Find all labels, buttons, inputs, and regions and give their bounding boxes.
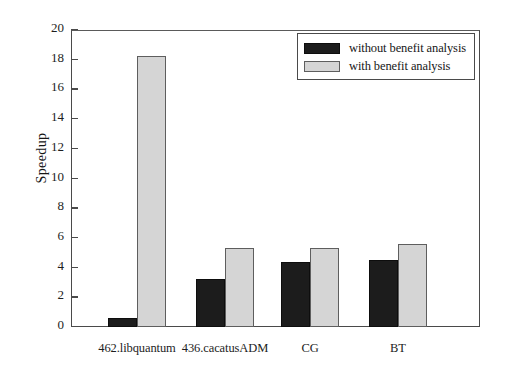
bar xyxy=(369,260,398,327)
y-tick-label: 20 xyxy=(30,20,64,36)
x-tick-label: BT xyxy=(328,341,468,356)
tick-mark xyxy=(71,29,78,30)
legend-item: with benefit analysis xyxy=(304,57,474,75)
y-tick-label: 14 xyxy=(30,109,64,125)
bar xyxy=(108,318,137,327)
y-tick-label: 2 xyxy=(30,287,64,303)
tick-mark xyxy=(71,178,78,179)
bar xyxy=(398,244,427,327)
tick-mark xyxy=(71,296,78,297)
legend-swatch-icon xyxy=(304,61,340,72)
y-tick-label: 4 xyxy=(30,258,64,274)
legend-label: without benefit analysis xyxy=(349,41,466,56)
legend: without benefit analysis with benefit an… xyxy=(297,33,475,80)
tick-mark xyxy=(71,237,78,238)
y-tick-label: 8 xyxy=(30,198,64,214)
bar-chart: Speedup 02468101214161820 462.libquantum… xyxy=(0,0,507,383)
y-tick-label: 18 xyxy=(30,50,64,66)
tick-mark xyxy=(71,326,78,327)
tick-mark xyxy=(71,267,78,268)
legend-swatch-icon xyxy=(304,43,340,54)
bar xyxy=(281,262,310,327)
tick-mark xyxy=(71,148,78,149)
tick-mark xyxy=(71,118,78,119)
y-tick-label: 6 xyxy=(30,228,64,244)
legend-item: without benefit analysis xyxy=(304,39,474,57)
y-tick-label: 12 xyxy=(30,139,64,155)
tick-mark xyxy=(71,88,78,89)
bar xyxy=(225,248,254,327)
legend-label: with benefit analysis xyxy=(349,59,450,74)
y-tick-label: 10 xyxy=(30,169,64,185)
bar xyxy=(310,248,339,327)
tick-mark xyxy=(71,59,78,60)
y-tick-label: 0 xyxy=(30,317,64,333)
y-tick-label: 16 xyxy=(30,79,64,95)
tick-mark xyxy=(71,207,78,208)
bar xyxy=(196,279,225,327)
bar xyxy=(137,56,166,327)
